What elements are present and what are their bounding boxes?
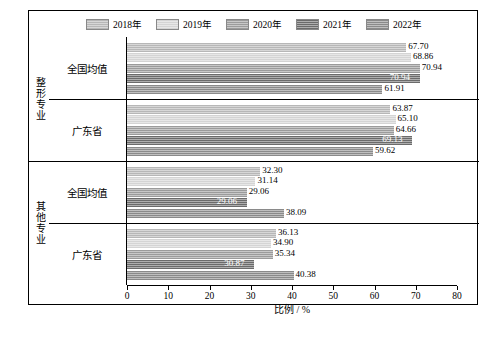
x-tick-label: 0 (125, 291, 130, 301)
x-tick-label: 20 (205, 291, 215, 301)
bar-value-label: 70.94 (422, 62, 442, 72)
legend-label-2020: 2020年 (253, 17, 282, 31)
bar-value-label: 61.91 (384, 83, 404, 93)
category-label: 广东省 (49, 223, 125, 285)
bar (127, 53, 411, 62)
bar-cluster: 67.7068.8670.9470.9461.91 (127, 37, 477, 99)
x-tick-label: 50 (329, 291, 339, 301)
bar-value-label: 68.86 (413, 51, 433, 61)
x-tick-label: 60 (370, 291, 380, 301)
bar-value-label: 69.13 (382, 134, 402, 144)
legend-label-2022: 2022年 (393, 17, 422, 31)
bar-row: 59.62 (127, 147, 457, 156)
bar-row: 40.38 (127, 271, 457, 280)
bar-value-label: 32.30 (262, 165, 282, 175)
bar-value-label: 29.06 (249, 186, 269, 196)
legend-item-2021: 2021年 (296, 17, 352, 31)
legend-item-2020: 2020年 (226, 17, 282, 31)
bar-row: 64.66 (127, 126, 457, 135)
x-tick-label: 10 (164, 291, 174, 301)
bar (127, 177, 255, 186)
bar (127, 115, 396, 124)
chart-group: 其他专业全国均值32.3031.1429.0629.0638.09广东省36.1… (29, 161, 477, 285)
x-tick (210, 286, 211, 290)
bar-value-label: 29.06 (217, 196, 237, 206)
category-label: 全国均值 (49, 161, 125, 223)
bar-row: 31.14 (127, 177, 457, 186)
bar-value-label: 59.62 (375, 145, 395, 155)
bar-row: 35.34 (127, 250, 457, 259)
bar (127, 74, 420, 83)
bar-row: 69.13 (127, 136, 457, 145)
bar-value-label: 35.34 (275, 248, 295, 258)
bar (127, 85, 382, 94)
group-label: 其他专业 (31, 161, 49, 285)
category-label: 全国均值 (49, 37, 125, 99)
bar-value-label: 65.10 (398, 113, 418, 123)
x-tick (333, 286, 334, 290)
x-tick (375, 286, 376, 290)
bar (127, 136, 412, 145)
bar-row: 29.06 (127, 188, 457, 197)
bar-row: 67.70 (127, 43, 457, 52)
legend-swatch-2019 (156, 19, 179, 30)
bar-value-label: 67.70 (408, 41, 428, 51)
legend-swatch-2022 (366, 19, 389, 30)
group-label-text: 其他专业 (33, 201, 48, 245)
x-tick (457, 286, 458, 290)
x-tick (292, 286, 293, 290)
legend-item-2022: 2022年 (366, 17, 422, 31)
chart-container: 2018年 2019年 2020年 2021年 2022年 整形专业全国均值67… (0, 0, 492, 343)
bar-cluster: 36.1334.9035.3430.8740.38 (127, 223, 477, 285)
legend-label-2019: 2019年 (183, 17, 212, 31)
bar-value-label: 63.87 (392, 103, 412, 113)
bar (127, 43, 406, 52)
bar (127, 209, 284, 218)
bar (127, 105, 390, 114)
x-tick (416, 286, 417, 290)
x-tick-label: 70 (411, 291, 421, 301)
bar (127, 239, 271, 248)
x-tick-label: 80 (452, 291, 462, 301)
bar-value-label: 64.66 (396, 124, 416, 134)
chart-group: 整形专业全国均值67.7068.8670.9470.9461.91广东省63.8… (29, 37, 477, 161)
legend-item-2018: 2018年 (86, 17, 142, 31)
bar-row: 68.86 (127, 53, 457, 62)
bar (127, 250, 273, 259)
bar-row: 32.30 (127, 167, 457, 176)
x-tick (168, 286, 169, 290)
bar-value-label: 70.94 (390, 72, 410, 82)
bar-row: 61.91 (127, 85, 457, 94)
legend-label-2021: 2021年 (323, 17, 352, 31)
bar (127, 229, 276, 238)
x-tick (127, 286, 128, 290)
group-label-text: 整形专业 (33, 77, 48, 121)
bar-cluster: 63.8765.1064.6669.1359.62 (127, 99, 477, 161)
x-axis-label: 比例 / % (127, 301, 457, 316)
legend-swatch-2018 (86, 19, 109, 30)
bar (127, 64, 420, 73)
x-tick (251, 286, 252, 290)
category-label: 广东省 (49, 99, 125, 161)
chart-legend: 2018年 2019年 2020年 2021年 2022年 (29, 11, 479, 37)
legend-item-2019: 2019年 (156, 17, 212, 31)
bar (127, 167, 260, 176)
bar-value-label: 36.13 (278, 227, 298, 237)
bar-row: 30.87 (127, 260, 457, 269)
bar-cluster: 32.3031.1429.0629.0638.09 (127, 161, 477, 223)
legend-swatch-2020 (226, 19, 249, 30)
bar (127, 271, 294, 280)
x-tick-label: 30 (246, 291, 256, 301)
bar-value-label: 30.87 (224, 258, 244, 268)
bar (127, 126, 394, 135)
bar-value-label: 38.09 (286, 207, 306, 217)
bar-value-label: 31.14 (257, 175, 277, 185)
bar-value-label: 40.38 (296, 269, 316, 279)
legend-label-2018: 2018年 (113, 17, 142, 31)
bar (127, 147, 373, 156)
x-tick-label: 40 (287, 291, 297, 301)
plot-frame: 2018年 2019年 2020年 2021年 2022年 整形专业全国均值67… (28, 10, 478, 305)
bar-value-label: 34.90 (273, 237, 293, 247)
bar-row: 38.09 (127, 209, 457, 218)
x-axis: 01020304050607080 (127, 285, 457, 286)
